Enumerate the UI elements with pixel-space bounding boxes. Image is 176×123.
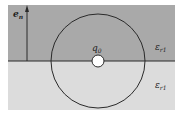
diagram-canvas: en q0 εr1 εr1: [0, 0, 176, 123]
point-charge: [92, 55, 104, 67]
lower-dielectric-region: [8, 61, 175, 110]
